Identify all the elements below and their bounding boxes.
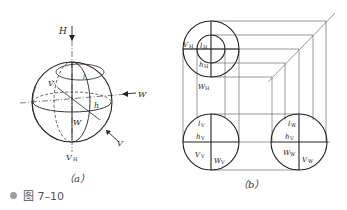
label-W-arrow: W <box>138 90 147 99</box>
label-W: W <box>73 118 82 127</box>
front-view <box>183 114 239 170</box>
label-lW: l <box>288 120 290 128</box>
label-lV-sub: V <box>200 122 205 128</box>
sphere-projection-figure: H V l h W W V V H <box>0 0 347 210</box>
label-V-arrow: V <box>117 139 124 148</box>
label-lW-sub: W <box>291 122 297 128</box>
label-hH-sub: H <box>204 63 209 69</box>
label-l-top: l <box>83 73 85 80</box>
subfigure-a-label: （a） <box>64 170 90 185</box>
sphere-labels: H V l h W W V V H <box>48 26 147 162</box>
label-hH: h <box>199 61 204 69</box>
label-lH: l <box>200 42 202 50</box>
label-lV: l <box>198 120 200 128</box>
bullet-dot-icon <box>10 192 17 199</box>
label-H: H <box>58 26 67 36</box>
label-WH-sub: H <box>205 85 210 91</box>
label-lH-sub: H <box>203 44 208 50</box>
label-VW-sub: W <box>308 158 314 164</box>
figure-caption: 图 7–10 <box>10 187 64 203</box>
top-view <box>183 21 239 77</box>
label-WV-sub: V <box>220 159 225 165</box>
label-V: V <box>48 79 55 88</box>
label-h: h <box>94 101 99 110</box>
label-hV-sub: V <box>200 135 205 141</box>
label-VH-sub: H <box>73 156 78 162</box>
label-hV-side: h <box>285 133 290 141</box>
subfigure-b-label: （b） <box>238 176 264 191</box>
side-view <box>271 114 327 170</box>
label-VH-sub: H <box>189 43 194 49</box>
label-VV-sub: V <box>200 153 205 159</box>
figure-number: 图 7–10 <box>23 187 64 203</box>
label-WW-sub: W <box>290 151 296 157</box>
label-VH: V <box>66 153 73 162</box>
label-hV: h <box>196 133 201 141</box>
sphere-pictorial <box>20 26 136 152</box>
label-hV-side-sub: V <box>289 135 294 141</box>
